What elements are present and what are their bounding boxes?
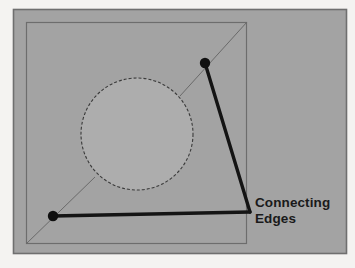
figure-root: Connecting Edges <box>0 0 355 268</box>
vertex-top-right-dot <box>200 58 210 68</box>
diagram-canvas: Connecting Edges <box>0 0 355 268</box>
center-circle <box>81 78 193 190</box>
annotation-label-line1: Connecting <box>255 195 330 210</box>
annotation-label-line2: Edges <box>255 211 296 226</box>
vertex-bottom-left-dot <box>48 211 58 221</box>
